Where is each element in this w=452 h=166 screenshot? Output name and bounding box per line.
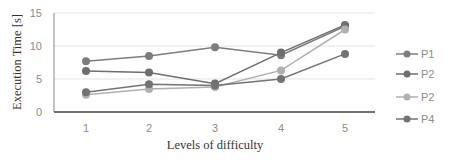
legend-item: P1 [396, 48, 434, 60]
data-point-marker [82, 57, 90, 65]
legend-label: P1 [421, 48, 434, 60]
legend-label: P2 [421, 68, 434, 80]
legend-marker-icon [404, 71, 411, 78]
x-tick-label: 1 [83, 122, 89, 134]
legend: P1P2P2P4 [396, 48, 434, 125]
legend-label: P4 [421, 113, 434, 125]
line-chart: 051015 12345 Execution Time [s] Levels o… [0, 0, 452, 166]
data-point-marker [82, 67, 90, 75]
series-line-p4 [82, 50, 349, 96]
x-tick-label: 5 [342, 122, 348, 134]
data-point-marker [145, 52, 153, 60]
data-point-marker [82, 88, 90, 96]
data-point-marker [277, 49, 285, 57]
data-point-marker [145, 68, 153, 76]
x-tick-label: 2 [146, 122, 152, 134]
y-tick-label: 0 [36, 106, 42, 118]
data-point-marker [341, 26, 349, 34]
legend-marker-icon [404, 94, 411, 101]
x-axis-title: Levels of difficulty [167, 138, 264, 152]
legend-label: P2 [421, 91, 434, 103]
x-tick-labels: 12345 [83, 122, 348, 134]
x-tick-label: 4 [278, 122, 284, 134]
series-line-p2 [82, 21, 349, 88]
legend-item: P4 [396, 113, 434, 125]
x-tick-label: 3 [212, 122, 218, 134]
y-tick-labels: 051015 [30, 7, 42, 118]
y-tick-label: 5 [36, 73, 42, 85]
legend-item: P2 [396, 91, 434, 103]
data-point-marker [277, 66, 285, 74]
data-point-marker [277, 75, 285, 83]
data-point-marker [341, 50, 349, 58]
series-line-p1 [82, 22, 349, 65]
data-point-marker [211, 82, 219, 90]
data-point-marker [145, 80, 153, 88]
legend-marker-icon [404, 116, 411, 123]
data-point-marker [211, 43, 219, 51]
legend-item: P2 [396, 68, 434, 80]
data-series [82, 21, 349, 99]
y-tick-label: 10 [30, 40, 42, 52]
legend-marker-icon [404, 51, 411, 58]
y-tick-label: 15 [30, 7, 42, 19]
y-axis-title: Execution Time [s] [10, 14, 24, 110]
